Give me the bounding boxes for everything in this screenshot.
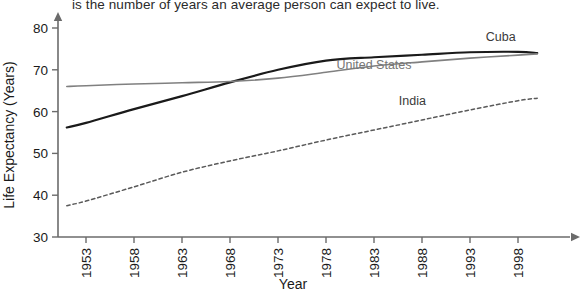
x-axis-tick-label: 1953 xyxy=(79,248,94,278)
chart-canvas: 304050607080 195319581963196819731978198… xyxy=(0,0,585,295)
x-axis-tick-label: 1963 xyxy=(175,248,190,278)
y-axis-arrow xyxy=(54,12,62,21)
y-axis: 304050607080 xyxy=(33,12,62,245)
x-axis-tick-label: 1983 xyxy=(367,248,382,278)
x-axis-tick-label: 1973 xyxy=(271,248,286,278)
x-axis-tick-label: 1968 xyxy=(223,248,238,278)
series-labels: CubaUnited StatesIndia xyxy=(336,30,515,109)
series-label-india: India xyxy=(399,94,426,108)
series-label-cuba: Cuba xyxy=(486,30,516,44)
y-axis-tick-label: 70 xyxy=(33,63,48,78)
series-line-united-states xyxy=(67,54,537,87)
x-axis: 1953195819631968197319781983198819931998 xyxy=(58,233,580,278)
y-axis-title: Life Expectancy (Years) xyxy=(1,61,17,208)
series-label-united-states: United States xyxy=(336,58,411,72)
series-line-india xyxy=(67,98,537,205)
y-axis-tick-label: 40 xyxy=(33,188,48,203)
life-expectancy-chart: is the number of years an average person… xyxy=(0,0,585,295)
chart-caption: is the number of years an average person… xyxy=(72,0,542,12)
y-axis-tick-label: 80 xyxy=(33,21,48,36)
series-lines xyxy=(67,52,537,206)
y-axis-tick-label: 30 xyxy=(33,230,48,245)
x-axis-arrow xyxy=(571,233,580,241)
x-axis-tick-label: 1958 xyxy=(127,248,142,278)
x-axis-tick-label: 1978 xyxy=(319,248,334,278)
x-axis-tick-label: 1993 xyxy=(463,248,478,278)
series-line-cuba xyxy=(67,52,537,128)
y-axis-tick-label: 60 xyxy=(33,105,48,120)
y-axis-tick-label: 50 xyxy=(33,146,48,161)
x-axis-tick-label: 1998 xyxy=(511,248,526,278)
x-axis-tick-label: 1988 xyxy=(415,248,430,278)
x-axis-title: Year xyxy=(279,276,308,292)
